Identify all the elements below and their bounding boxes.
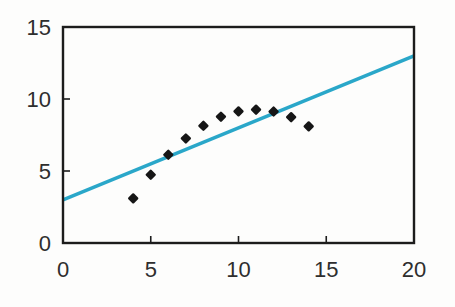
x-tick-label: 0 bbox=[57, 257, 69, 282]
chart-canvas: 05101520051015 bbox=[0, 0, 455, 307]
y-tick-label: 15 bbox=[27, 15, 51, 40]
x-tick-label: 5 bbox=[145, 257, 157, 282]
x-tick-label: 20 bbox=[402, 257, 426, 282]
figure-page: 05101520051015 bbox=[0, 0, 455, 307]
data-point bbox=[233, 106, 244, 117]
y-tick-label: 5 bbox=[39, 159, 51, 184]
scatter-chart: 05101520051015 bbox=[0, 0, 455, 307]
regression-line bbox=[63, 56, 414, 200]
data-point bbox=[145, 169, 156, 180]
data-point bbox=[180, 133, 191, 144]
data-point bbox=[215, 111, 226, 122]
x-tick-label: 10 bbox=[226, 257, 250, 282]
data-point bbox=[198, 120, 209, 131]
data-point bbox=[128, 193, 139, 204]
data-point bbox=[285, 111, 296, 122]
data-point bbox=[250, 104, 261, 115]
y-tick-label: 0 bbox=[39, 231, 51, 256]
data-point bbox=[303, 121, 314, 132]
y-tick-label: 10 bbox=[27, 87, 51, 112]
x-tick-label: 15 bbox=[314, 257, 338, 282]
plot-border bbox=[63, 27, 414, 243]
